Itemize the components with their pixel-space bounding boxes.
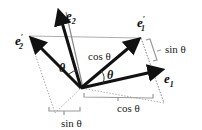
cos-top-label: cos θ bbox=[88, 50, 111, 62]
e1-label: e1 bbox=[164, 71, 174, 89]
angle-arc-1 bbox=[101, 71, 104, 83]
sin-right-label: sin θ bbox=[165, 43, 186, 55]
e2-prime-label: e′2 bbox=[15, 33, 23, 51]
cos-bottom-label: cos θ bbox=[117, 102, 140, 114]
sin-bottom-label: sin θ bbox=[61, 117, 82, 129]
e2-label: e2 bbox=[66, 8, 76, 26]
rotation-diagram: e′2 e2 e′1 e1 θ θ cos θ sin θ cos θ sin … bbox=[0, 0, 202, 130]
theta-label-lower: θ bbox=[107, 68, 114, 82]
e1-prime-label: e′1 bbox=[137, 15, 145, 33]
theta-label-upper: θ bbox=[59, 61, 66, 75]
